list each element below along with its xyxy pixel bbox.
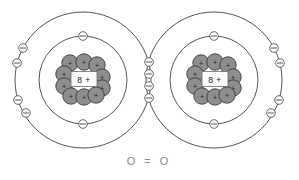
nucleon-plus-sign: +	[193, 83, 197, 90]
electron	[19, 44, 28, 53]
nucleon-plus-sign: +	[62, 71, 66, 78]
bohr-model-diagram: + + + + + + + + + +	[0, 0, 299, 180]
electron	[79, 32, 88, 41]
diagram-canvas: + + + + + + + + + +	[0, 0, 299, 180]
left-oxygen-atom: + + + + + + + + + +	[13, 12, 151, 148]
electron	[14, 96, 23, 105]
left-nucleus-charge-label: 8 +	[77, 75, 90, 85]
electron	[13, 59, 22, 68]
electron	[210, 32, 219, 41]
right-nucleus-charge-label: 8 +	[208, 75, 221, 85]
electron	[275, 96, 284, 105]
nucleon-plus-sign: +	[82, 94, 86, 101]
electron	[79, 120, 88, 129]
nucleon-plus-sign: +	[213, 59, 217, 66]
nucleon-plus-sign: +	[82, 59, 86, 66]
left-atom-nucleus: + + + + + + + + + +	[56, 54, 110, 105]
oxygen-double-bond-formula: O = O	[127, 155, 172, 167]
electron	[276, 59, 285, 68]
right-atom-nucleus: + + + + + + + + + +	[187, 54, 241, 105]
nucleon-plus-sign: +	[69, 93, 73, 100]
electron	[145, 70, 154, 79]
nucleon-plus-sign: +	[62, 83, 66, 90]
nucleon-plus-sign: +	[225, 92, 229, 99]
electron	[210, 120, 219, 129]
electron	[270, 44, 279, 53]
electron	[145, 82, 154, 91]
nucleon-plus-sign: +	[94, 92, 98, 99]
nucleon-plus-sign: +	[226, 62, 230, 69]
right-oxygen-atom: + + + + + + + + + +	[146, 12, 284, 148]
nucleon-plus-sign: +	[68, 60, 72, 67]
nucleon-plus-sign: +	[199, 60, 203, 67]
nucleon-plus-sign: +	[200, 93, 204, 100]
nucleon-plus-sign: +	[95, 62, 99, 69]
nucleon-plus-sign: +	[213, 94, 217, 101]
electron	[145, 94, 154, 103]
nucleon-plus-sign: +	[193, 71, 197, 78]
electron	[267, 109, 276, 118]
electron	[145, 58, 154, 67]
electron	[22, 109, 31, 118]
